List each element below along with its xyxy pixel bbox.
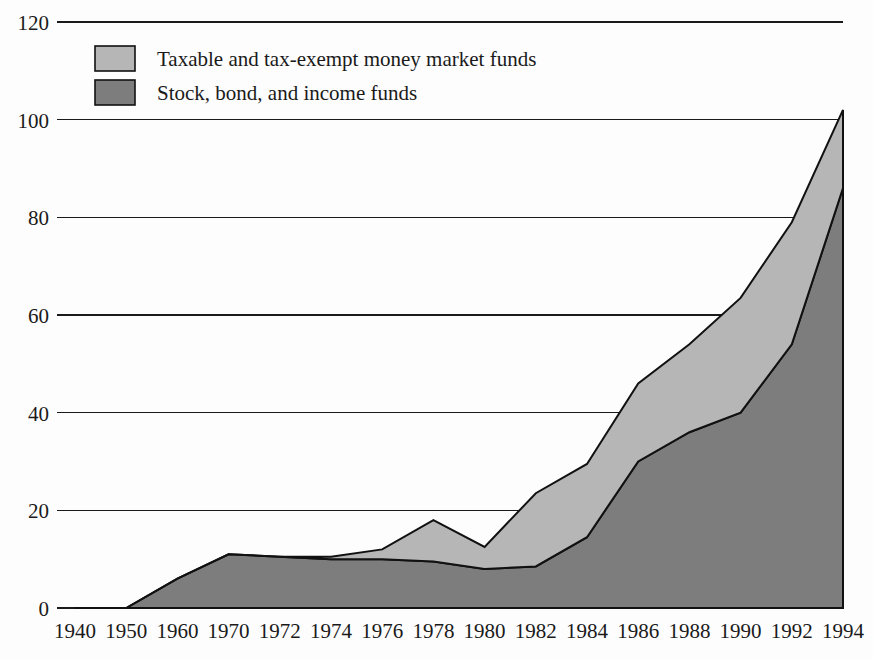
x-tick-label-1994: 1994 bbox=[822, 619, 865, 643]
x-tick-label-1950: 1950 bbox=[105, 619, 147, 643]
y-tick-label-0: 0 bbox=[39, 597, 50, 621]
legend-swatch-0 bbox=[95, 46, 135, 71]
x-tick-label-1982: 1982 bbox=[515, 619, 557, 643]
y-tick-label-100: 100 bbox=[18, 109, 50, 133]
area-chart: 020406080100120 194019501960197019721974… bbox=[0, 0, 873, 660]
legend-label-1: Stock, bond, and income funds bbox=[157, 81, 417, 105]
x-tick-label-1986: 1986 bbox=[617, 619, 659, 643]
x-tick-label-1990: 1990 bbox=[720, 619, 762, 643]
x-tick-label-1976: 1976 bbox=[361, 619, 403, 643]
y-tick-label-80: 80 bbox=[28, 206, 49, 230]
x-tick-label-1974: 1974 bbox=[310, 619, 353, 643]
y-tick-label-120: 120 bbox=[18, 11, 50, 35]
x-tick-label-1960: 1960 bbox=[156, 619, 198, 643]
x-tick-label-1978: 1978 bbox=[412, 619, 454, 643]
x-tick-label-1980: 1980 bbox=[464, 619, 506, 643]
x-tick-label-1940: 1940 bbox=[54, 619, 96, 643]
y-tick-label-40: 40 bbox=[28, 402, 49, 426]
x-tick-label-1984: 1984 bbox=[566, 619, 609, 643]
x-tick-label-1988: 1988 bbox=[668, 619, 710, 643]
x-tick-label-1972: 1972 bbox=[259, 619, 301, 643]
y-tick-label-60: 60 bbox=[28, 304, 49, 328]
x-tick-label-1992: 1992 bbox=[771, 619, 813, 643]
x-tick-label-1970: 1970 bbox=[208, 619, 250, 643]
legend-label-0: Taxable and tax-exempt money market fund… bbox=[157, 47, 536, 71]
y-tick-label-20: 20 bbox=[28, 499, 49, 523]
chart-container: 020406080100120 194019501960197019721974… bbox=[0, 0, 873, 660]
legend-swatch-1 bbox=[95, 80, 135, 105]
